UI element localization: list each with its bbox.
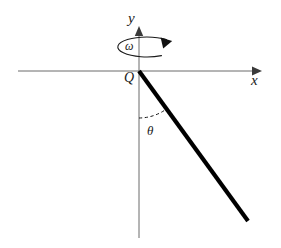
diagram-svg [0, 0, 281, 248]
angle-arc [139, 109, 167, 118]
rod [139, 71, 248, 221]
angular-velocity-label: ω [125, 40, 133, 52]
figure-canvas: y x Q ω θ [0, 0, 281, 248]
x-axis-label: x [251, 73, 258, 88]
y-axis-label: y [128, 11, 135, 26]
angle-label: θ [147, 124, 153, 137]
pivot-label: Q [124, 71, 134, 85]
y-axis-arrowhead [135, 26, 143, 36]
